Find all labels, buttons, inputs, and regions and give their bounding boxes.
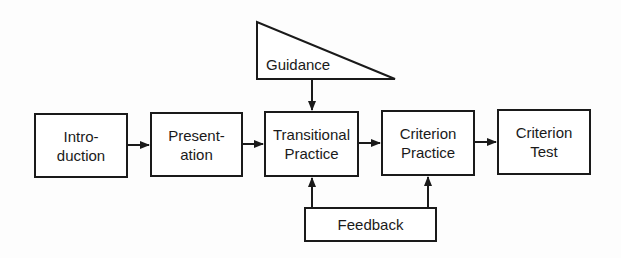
guidance-label: Guidance: [266, 56, 330, 73]
box-feedback: Feedback: [304, 207, 437, 242]
box-criterion-practice: Criterion Practice: [381, 110, 475, 176]
box-presentation: Present- ation: [150, 112, 243, 177]
box-transitional-practice-label: Transitional Practice: [273, 125, 350, 163]
box-criterion-test: Criterion Test: [497, 109, 591, 175]
box-introduction-label: Intro- duction: [57, 127, 105, 165]
box-introduction: Intro- duction: [34, 113, 128, 178]
box-transitional-practice: Transitional Practice: [264, 111, 359, 177]
box-criterion-test-label: Criterion Test: [516, 123, 573, 161]
box-feedback-label: Feedback: [338, 215, 404, 234]
instructional-flow-diagram: Guidance Intro- duction Present- ation T…: [0, 0, 621, 258]
box-criterion-practice-label: Criterion Practice: [400, 124, 457, 162]
box-presentation-label: Present- ation: [168, 126, 225, 164]
